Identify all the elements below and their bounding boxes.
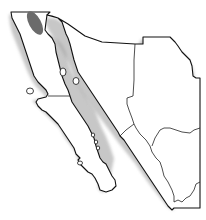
island-carmen-2: [94, 140, 97, 144]
island-cedros: [27, 88, 34, 94]
island-margarita: [78, 161, 83, 165]
island-tiburon: [73, 78, 79, 85]
island-angel-de-la-guarda: [60, 68, 66, 76]
map-canvas: [0, 0, 206, 220]
island-carmen-3: [96, 146, 99, 150]
island-carmen-1: [91, 133, 94, 137]
range-map: Range map of northwestern Mexico Distrib…: [0, 0, 206, 220]
